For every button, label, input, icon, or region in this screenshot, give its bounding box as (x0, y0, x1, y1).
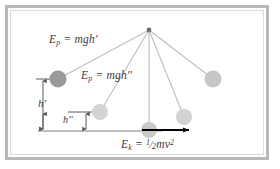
bob-right-mid (176, 109, 192, 125)
bob-leftmost-highest (50, 71, 67, 88)
bob-left-mid (92, 104, 108, 120)
ek-fraction: 1⁄2 (146, 139, 156, 151)
ep2-expression: mgh (106, 69, 126, 81)
pivot-point (147, 28, 152, 33)
label-h-double-prime: h'' (63, 115, 73, 125)
label-potential-energy-h-double-prime: Ep = mgh'' (81, 70, 132, 83)
ep2-equals: = (92, 69, 106, 81)
bob-rightmost (205, 71, 222, 88)
ep1-prime: ' (95, 33, 98, 45)
label-kinetic-energy: Ek = 1⁄2mv2 (121, 139, 174, 152)
ep1-equals: = (60, 33, 74, 45)
label-potential-energy-h-prime: Ep = mgh' (49, 34, 98, 47)
ek-equals: = (132, 138, 146, 150)
ek-exponent: 2 (170, 138, 174, 147)
ep1-expression: mgh (74, 33, 94, 45)
ep2-prime: '' (127, 69, 132, 81)
label-h-prime: h' (38, 98, 46, 109)
pendulum-energy-figure: Ep = mgh' Ep = mgh'' Ek = 1⁄2mv2 h' h'' (0, 0, 280, 169)
ek-expression: mv (156, 138, 170, 150)
